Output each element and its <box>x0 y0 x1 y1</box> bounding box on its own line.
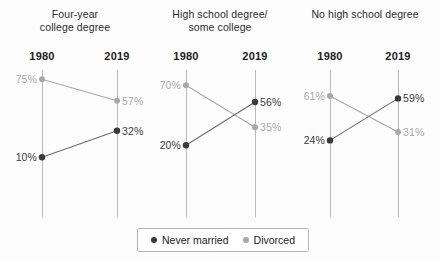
slope-line-never-married <box>186 102 255 145</box>
legend-label-divorced: Divorced <box>254 234 295 246</box>
slope-line-divorced <box>42 79 117 101</box>
point-never-married-1980 <box>183 142 189 148</box>
point-never-married-2019 <box>252 99 258 105</box>
value-label-never-married-2019: 32% <box>122 125 143 137</box>
value-label-divorced-2019: 31% <box>403 126 424 138</box>
value-label-divorced-1980: 75% <box>6 73 37 85</box>
point-never-married-2019 <box>395 95 401 101</box>
value-label-divorced-2019: 57% <box>122 95 143 107</box>
slope-line-divorced <box>330 96 398 132</box>
value-label-never-married-1980: 20% <box>150 139 181 151</box>
point-divorced-1980 <box>39 76 45 82</box>
legend-dot-never-married-icon <box>151 237 157 243</box>
legend-dot-divorced-icon <box>243 237 249 243</box>
point-never-married-1980 <box>39 154 45 160</box>
slope-line-never-married <box>42 131 117 157</box>
point-divorced-2019 <box>252 124 258 130</box>
legend-item-divorced: Divorced <box>243 234 295 246</box>
panel-slopes <box>146 0 294 225</box>
chart-legend: Never married Divorced <box>137 228 309 252</box>
value-label-never-married-2019: 59% <box>403 92 424 104</box>
slope-line-never-married <box>330 98 398 140</box>
value-label-divorced-2019: 35% <box>260 121 281 133</box>
value-label-never-married-2019: 56% <box>260 96 281 108</box>
legend-label-never-married: Never married <box>162 234 229 246</box>
legend-item-never-married: Never married <box>151 234 229 246</box>
slope-chart-figure: Four-year college degree 1980 2019 75% 5… <box>0 0 439 261</box>
point-divorced-1980 <box>183 82 189 88</box>
panel-high-school-degree-some-college: High school degree/ some college 1980 20… <box>146 0 294 225</box>
panel-no-high-school-degree: No high school degree 1980 2019 61% 31% … <box>291 0 439 225</box>
panel-four-year-college-degree: Four-year college degree 1980 2019 75% 5… <box>0 0 150 225</box>
value-label-divorced-1980: 61% <box>294 90 325 102</box>
panel-slopes <box>291 0 439 225</box>
point-divorced-2019 <box>114 98 120 104</box>
point-divorced-1980 <box>327 93 333 99</box>
slope-line-divorced <box>186 85 255 127</box>
value-label-never-married-1980: 10% <box>6 151 37 163</box>
point-never-married-2019 <box>114 128 120 134</box>
point-never-married-1980 <box>327 137 333 143</box>
point-divorced-2019 <box>395 129 401 135</box>
value-label-divorced-1980: 70% <box>150 79 181 91</box>
panel-slopes <box>0 0 150 225</box>
value-label-never-married-1980: 24% <box>294 134 325 146</box>
